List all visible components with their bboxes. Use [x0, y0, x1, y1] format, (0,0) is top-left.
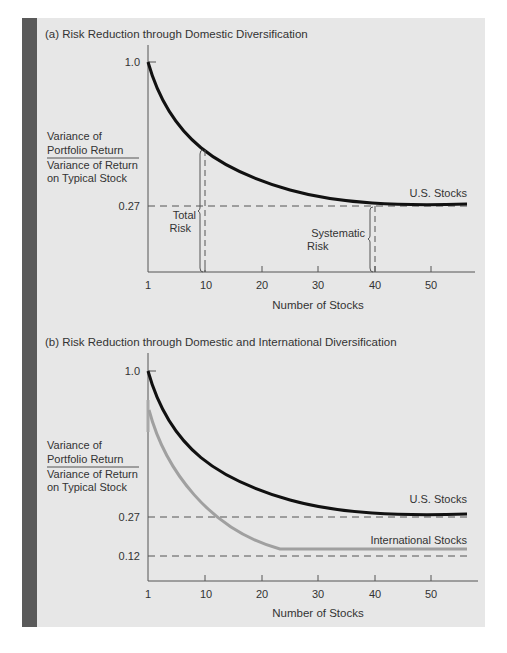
- svg-text:50: 50: [425, 588, 437, 600]
- figure-svg: (a) Risk Reduction through Domestic Dive…: [0, 0, 507, 653]
- svg-text:U.S. Stocks: U.S. Stocks: [410, 493, 468, 505]
- svg-text:40: 40: [369, 588, 381, 600]
- svg-text:Variance of Return: Variance of Return: [47, 159, 138, 171]
- svg-text:1: 1: [145, 279, 151, 291]
- x-axis-label-b: Number of Stocks: [272, 607, 364, 619]
- systematic-risk-bracket: [368, 207, 373, 272]
- svg-text:0.12: 0.12: [119, 550, 140, 562]
- x-tick-labels-a: 110 2030 4050: [145, 279, 437, 291]
- y-tick-1.0-a: 1.0: [125, 56, 140, 68]
- y-axis-label-b: Variance of Portfolio Return Variance of…: [47, 439, 139, 493]
- us-stocks-curve-a: [148, 62, 467, 205]
- svg-text:Variance of Return: Variance of Return: [47, 468, 138, 480]
- svg-text:1: 1: [145, 588, 151, 600]
- svg-text:20: 20: [256, 279, 268, 291]
- svg-text:Systematic: Systematic: [311, 227, 365, 239]
- svg-text:20: 20: [256, 588, 268, 600]
- svg-text:10: 10: [200, 588, 212, 600]
- x-ticks-b: [205, 575, 431, 581]
- panel-a-title: (a) Risk Reduction through Domestic Dive…: [45, 28, 308, 40]
- svg-text:30: 30: [312, 588, 324, 600]
- total-risk-bracket: [198, 150, 203, 272]
- x-tick-labels-b: 110 2030 4050: [145, 588, 437, 600]
- svg-text:Risk: Risk: [170, 222, 192, 234]
- svg-text:Total: Total: [173, 209, 196, 221]
- svg-text:on Typical Stock: on Typical Stock: [47, 481, 127, 493]
- y-tick-0.27-a: 0.27: [119, 200, 140, 212]
- svg-text:Variance of: Variance of: [47, 439, 103, 451]
- svg-text:Variance of: Variance of: [47, 130, 103, 142]
- svg-text:30: 30: [312, 279, 324, 291]
- svg-text:on Typical Stock: on Typical Stock: [47, 172, 127, 184]
- svg-text:40: 40: [369, 279, 381, 291]
- svg-text:Portfolio Return: Portfolio Return: [47, 453, 123, 465]
- svg-text:50: 50: [425, 279, 437, 291]
- x-axis-label-a: Number of Stocks: [272, 299, 364, 311]
- svg-text:0.27: 0.27: [119, 511, 140, 523]
- intl-stocks-curve-b: [149, 410, 467, 549]
- us-stocks-label-a: U.S. Stocks: [410, 187, 468, 199]
- svg-text:Portfolio Return: Portfolio Return: [47, 144, 123, 156]
- svg-text:10: 10: [200, 279, 212, 291]
- y-axis-label-a: Variance of Portfolio Return Variance of…: [47, 130, 139, 184]
- svg-text:1.0: 1.0: [125, 365, 140, 377]
- svg-text:Risk: Risk: [307, 240, 329, 252]
- panel-b-title: (b) Risk Reduction through Domestic and …: [45, 336, 397, 348]
- x-ticks-a: [205, 266, 431, 272]
- svg-text:International Stocks: International Stocks: [370, 534, 467, 546]
